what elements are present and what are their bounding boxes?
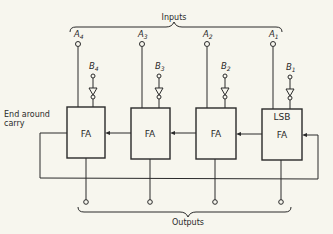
inputs-brace: [70, 22, 282, 32]
carry-label-line1: End around: [4, 110, 50, 119]
input-b2-label: B2: [221, 61, 231, 72]
inverter-4: [89, 74, 97, 107]
inverter-2: [221, 74, 229, 108]
input-b4-label: B4: [89, 61, 99, 72]
input-a4-label: A4: [73, 29, 84, 40]
input-b1-label: B1: [286, 62, 296, 73]
input-a1-label: A1: [268, 29, 279, 40]
inverter-3: [155, 74, 163, 108]
lsb-label: LSB: [274, 112, 291, 122]
inverter-1: [286, 75, 294, 109]
ones-complement-adder-diagram: Inputs Outputs End around carry A4 A3 A2…: [0, 0, 333, 234]
input-a3-label: A3: [137, 29, 148, 40]
outputs-label: Outputs: [172, 218, 204, 227]
fa-label-4: FA: [81, 129, 92, 139]
input-a2-label: A2: [202, 29, 213, 40]
fa-label-1: FA: [277, 130, 288, 140]
fa-label-2: FA: [211, 129, 222, 139]
inputs-label: Inputs: [162, 13, 187, 22]
fa-label-3: FA: [145, 129, 156, 139]
outputs-brace: [78, 207, 291, 217]
input-b3-label: B3: [155, 61, 165, 72]
carry-label-line2: carry: [4, 119, 25, 128]
